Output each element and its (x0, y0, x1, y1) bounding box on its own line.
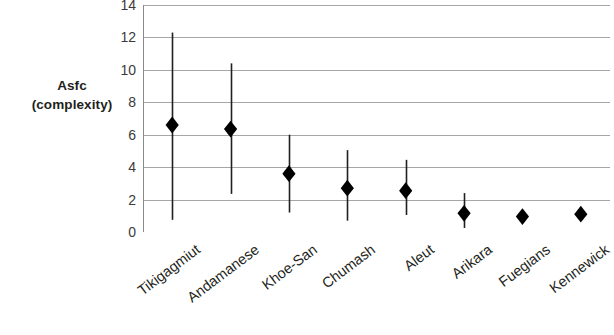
asfc-complexity-chart: Asfc (complexity) 14121086420 Tikigagmiu… (0, 0, 614, 335)
data-point-marker (341, 180, 354, 197)
x-axis-tick-label: Tikigagmiut (66, 242, 203, 335)
data-point-marker (399, 182, 412, 199)
plot-svg (143, 5, 610, 232)
error-bars (173, 33, 465, 228)
x-axis-tick-labels: TikigagmiutAndamaneseKhoe-SanChumashAleu… (143, 232, 610, 335)
data-point-marker (224, 121, 237, 138)
y-axis-tick-label: 10 (104, 63, 136, 77)
data-point-markers (166, 117, 588, 225)
gridlines (143, 6, 610, 233)
y-axis-tick-label: 14 (104, 0, 136, 12)
y-axis-tick-label: 6 (104, 128, 136, 142)
data-point-marker (574, 206, 587, 223)
plot-area (143, 5, 610, 232)
data-point-marker (457, 205, 470, 222)
data-point-marker (166, 117, 179, 134)
y-axis-tick-label: 8 (104, 95, 136, 109)
y-axis-tick-label: 12 (104, 30, 136, 44)
y-axis-tick-label: 4 (104, 160, 136, 174)
data-point-marker (516, 208, 529, 225)
y-axis-tick-label: 2 (104, 193, 136, 207)
y-axis-tick-labels: 14121086420 (100, 0, 136, 240)
y-axis-tick-label: 0 (104, 225, 136, 239)
